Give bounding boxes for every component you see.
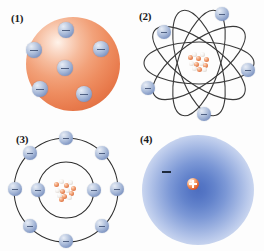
- electron: [241, 63, 255, 77]
- electron: [58, 22, 74, 38]
- electron-cloud: [142, 135, 254, 245]
- electron-outer-shell: [59, 234, 73, 248]
- electron-outer-shell: [8, 182, 22, 196]
- nucleus-positive-charge: [187, 178, 199, 190]
- electron: [141, 81, 155, 95]
- electron: [76, 86, 92, 102]
- proton: [54, 182, 59, 187]
- electron-outer-shell: [59, 131, 73, 145]
- electron-outer-shell: [110, 182, 124, 196]
- electron-inner-shell: [87, 183, 101, 197]
- electron: [215, 7, 229, 21]
- electron-outer-shell: [95, 146, 109, 160]
- panel-quantum-cloud-model: (4): [132, 126, 264, 251]
- plus-sign-horizontal: [189, 183, 197, 185]
- neutron: [67, 195, 72, 200]
- panel-bohr-shell-model: (3): [0, 126, 132, 251]
- panel-label-4: (4): [140, 133, 152, 145]
- electron: [157, 25, 171, 39]
- neutron: [59, 179, 64, 184]
- proton: [204, 57, 209, 62]
- panel-label-2: (2): [139, 10, 151, 22]
- electron: [93, 41, 109, 57]
- nucleus-cluster: [52, 178, 78, 202]
- panel-label-3: (3): [16, 133, 28, 145]
- electron: [57, 60, 73, 76]
- proton: [59, 197, 64, 202]
- electron-outer-shell: [95, 219, 109, 233]
- electron-minus-sign: [162, 171, 171, 173]
- electron: [32, 81, 48, 97]
- electron-outer-shell: [23, 219, 37, 233]
- electron: [197, 107, 211, 121]
- panel-rutherford-orbital-model: (2): [132, 0, 264, 125]
- electron: [26, 42, 42, 58]
- panel-label-1: (1): [11, 12, 23, 24]
- neutron: [200, 52, 205, 57]
- atomic-models-figure: (1) (2): [0, 0, 264, 251]
- neutron: [68, 180, 73, 185]
- nucleus-cluster: [186, 50, 212, 74]
- panel-plum-pudding-model: (1): [0, 0, 132, 125]
- neutron: [202, 67, 207, 72]
- electron-inner-shell: [31, 183, 45, 197]
- electron-outer-shell: [23, 146, 37, 160]
